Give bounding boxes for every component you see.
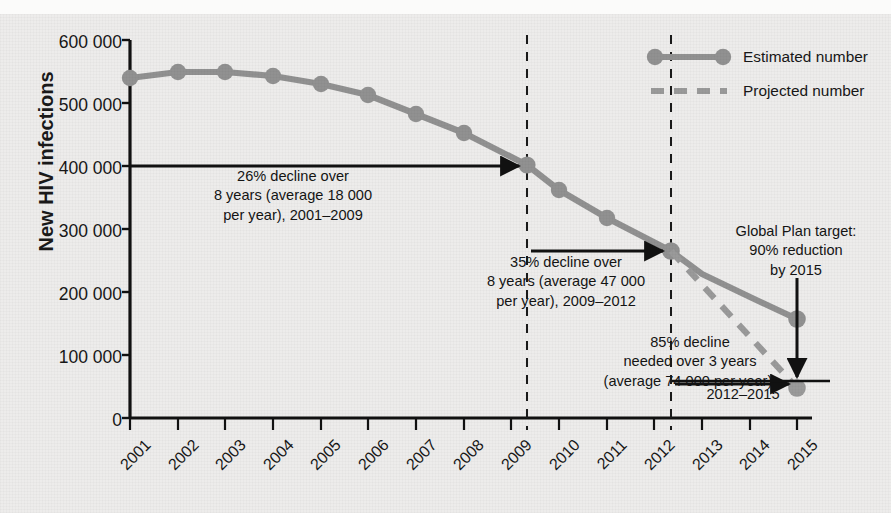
series-projected-number (671, 251, 797, 388)
series-estimated-markers (122, 64, 806, 328)
chart-figure: New HIV infections 600 000 500 000 400 0… (0, 0, 891, 513)
legend-glyph-estimated (647, 49, 731, 65)
series-estimated-number (130, 72, 797, 319)
x-axis-ticks (130, 418, 797, 430)
chart-vector-layer (0, 0, 891, 513)
axis-lines (130, 40, 812, 418)
chart-plot-area: New HIV infections 600 000 500 000 400 0… (0, 0, 891, 513)
